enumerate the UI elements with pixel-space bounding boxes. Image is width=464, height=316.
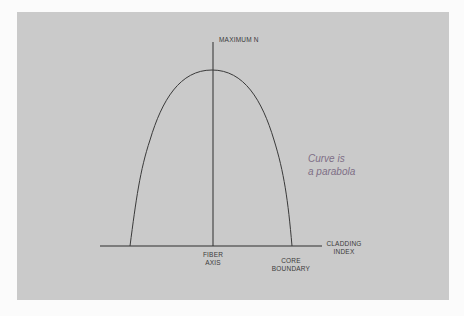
maximum-n-label: MAXIMUM N xyxy=(219,36,259,44)
cladding-index-label: CLADDING INDEX xyxy=(320,240,368,256)
annotation-line1: Curve is xyxy=(308,152,355,165)
core-boundary-text-line1: CORE xyxy=(266,257,316,265)
cladding-index-text-line2: INDEX xyxy=(320,248,368,256)
fiber-axis-text-line1: FIBER xyxy=(198,251,228,259)
parabolic-index-curve xyxy=(130,70,292,246)
parabola-annotation: Curve is a parabola xyxy=(308,152,355,178)
annotation-line2: a parabola xyxy=(308,165,355,178)
fiber-axis-label: FIBER AXIS xyxy=(198,251,228,267)
core-boundary-label: CORE BOUNDARY xyxy=(266,257,316,273)
cladding-index-text-line1: CLADDING xyxy=(320,240,368,248)
fiber-axis-text-line2: AXIS xyxy=(198,259,228,267)
index-profile-diagram xyxy=(0,0,464,316)
maximum-n-text: MAXIMUM N xyxy=(219,36,259,43)
core-boundary-text-line2: BOUNDARY xyxy=(266,265,316,273)
